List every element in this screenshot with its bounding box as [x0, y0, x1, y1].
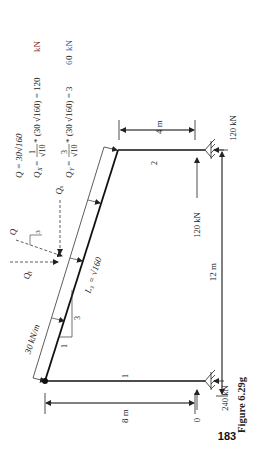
- qy-label: Qᵧ: [22, 271, 32, 280]
- reaction-right-vertical-label: 120 kN: [228, 115, 238, 140]
- svg-text:0: 0: [64, 55, 74, 60]
- svg-text:3: 3: [60, 150, 69, 154]
- figure-caption: Figure 6.29g: [236, 376, 247, 433]
- load-arrow: [70, 258, 82, 261]
- svg-text:Y: Y: [69, 167, 75, 171]
- equation-q: Q = 30√160: [14, 133, 24, 178]
- reaction-left-horizontal-label: 0: [192, 418, 202, 422]
- load-arrow: [52, 318, 64, 321]
- dim-4m-label: 4 m: [154, 120, 164, 134]
- inclined-member: [45, 150, 118, 381]
- svg-text:kN: kN: [64, 40, 74, 52]
- dim-12m-label: 12 m: [208, 263, 218, 281]
- load-arrow: [88, 200, 100, 203]
- resultant-slope-label: 3: [34, 230, 42, 234]
- member-1-label: 1: [121, 374, 130, 378]
- equation-qx: Q X = 1 √10 * (30 √160) = 120 kN: [28, 41, 47, 179]
- resultant-q-arrow: [16, 240, 62, 256]
- svg-text:kN: kN: [32, 41, 42, 53]
- svg-text:X: X: [37, 167, 43, 172]
- slope-run-label: 1: [60, 344, 69, 348]
- support-right: [205, 139, 215, 159]
- resultant-slope-triangle: [30, 235, 42, 245]
- reaction-left-vertical-label: 240 kN: [220, 385, 230, 410]
- member-2-label: 2: [150, 161, 159, 165]
- svg-text:Q: Q: [32, 171, 42, 178]
- svg-text:1: 1: [28, 150, 37, 154]
- svg-text:* (30 √160) = 120: * (30 √160) = 120: [32, 77, 42, 143]
- svg-text:√10: √10: [70, 145, 79, 157]
- svg-text:=: =: [32, 161, 42, 166]
- qx-label: Qₓ: [54, 185, 64, 194]
- figure-6-29g: 4 m 8 m 12 m 1 2 120 kN 120 kN 0 240 kN …: [0, 0, 254, 449]
- support-left: [205, 370, 215, 390]
- member-length-label: L₃ = √160: [82, 255, 103, 295]
- svg-text:=: =: [64, 161, 74, 166]
- reaction-right-horizontal-label: 120 kN: [192, 212, 202, 237]
- svg-text:√10: √10: [38, 145, 47, 157]
- slope-rise-label: 3: [73, 316, 82, 320]
- svg-text:Q: Q: [64, 171, 74, 178]
- svg-text:Q = 30√160: Q = 30√160: [14, 133, 24, 178]
- equation-qy: Q Y = 3 √10 * (30 √160) = 3 6 0 kN: [60, 40, 79, 179]
- page-number: 183: [218, 430, 236, 442]
- resultant-q-label: Q: [8, 228, 18, 235]
- load-band-cap-top: [104, 147, 117, 150]
- distributed-load-label: 30 kN/m: [22, 323, 41, 356]
- dim-8m-label: 8 m: [120, 409, 130, 423]
- slope-triangle: [58, 290, 72, 337]
- svg-text:* (30 √160) = 3: * (30 √160) = 3: [64, 86, 74, 143]
